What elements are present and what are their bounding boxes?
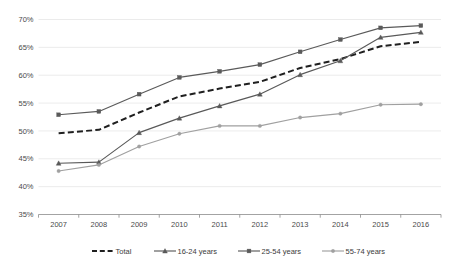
data-point-marker: [57, 169, 60, 172]
data-point-marker: [298, 116, 301, 119]
data-point-marker: [177, 76, 181, 80]
x-tick-label: 2007: [50, 220, 67, 229]
x-tick-label: 2016: [413, 220, 430, 229]
legend-label: 16-24 years: [178, 247, 218, 256]
data-point-marker: [247, 249, 251, 253]
legend-label: 55-74 years: [346, 247, 386, 256]
data-point-marker: [258, 63, 262, 67]
series-line: [59, 42, 421, 133]
x-tick-label: 2011: [212, 220, 228, 229]
legend-label: Total: [116, 247, 132, 256]
line-chart: 70%65%60%55%50%45%40%35% 200720082009201…: [0, 0, 449, 268]
y-tick-label: 60%: [18, 71, 33, 80]
y-tick-label: 65%: [18, 43, 33, 52]
data-point-marker: [178, 132, 181, 135]
plot-area: 70%65%60%55%50%45%40%35% 200720082009201…: [0, 0, 449, 268]
x-tick-label: 2013: [292, 220, 309, 229]
legend-item-total[interactable]: Total: [92, 247, 132, 256]
legend-label: 25-54 years: [262, 247, 302, 256]
data-point-marker: [338, 38, 342, 42]
y-tick-label: 40%: [18, 182, 33, 191]
y-tick-label: 45%: [18, 154, 33, 163]
x-tick-label: 2014: [332, 220, 349, 229]
data-point-marker: [379, 103, 382, 106]
x-tick-label: 2012: [252, 220, 269, 229]
data-point-marker: [419, 102, 422, 105]
x-tick-label: 2009: [131, 220, 148, 229]
x-axis-tick-labels: 2007200820092010201120122013201420152016: [50, 220, 429, 229]
chart-legend: Total16-24 years25-54 years55-74 years: [92, 247, 385, 256]
data-point-marker: [298, 50, 302, 54]
x-tick-label: 2015: [372, 220, 389, 229]
data-point-marker: [331, 249, 334, 252]
data-point-marker: [57, 113, 61, 117]
y-axis-tick-labels: 70%65%60%55%50%45%40%35%: [18, 15, 33, 219]
data-point-marker: [97, 110, 101, 114]
data-point-marker: [339, 112, 342, 115]
data-point-marker: [419, 24, 423, 28]
data-point-marker: [258, 124, 261, 127]
data-point-marker: [218, 124, 221, 127]
series-line: [59, 104, 421, 171]
legend-item-25-54-years[interactable]: 25-54 years: [238, 247, 301, 256]
y-tick-label: 35%: [18, 210, 33, 219]
legend-item-55-74-years[interactable]: 55-74 years: [322, 247, 385, 256]
series-line: [59, 26, 421, 115]
x-tick-label: 2010: [171, 220, 188, 229]
y-tick-label: 70%: [18, 15, 33, 24]
x-tick-label: 2008: [91, 220, 108, 229]
data-point-marker: [97, 163, 100, 166]
series-total: [59, 42, 421, 133]
y-tick-label: 55%: [18, 99, 33, 108]
series-55-74-years: [57, 102, 423, 172]
series-line: [59, 32, 421, 163]
legend-item-16-24-years[interactable]: 16-24 years: [154, 247, 217, 256]
data-series-group: [56, 24, 423, 173]
data-point-marker: [137, 92, 141, 96]
data-point-marker: [379, 26, 383, 30]
axes: [39, 215, 442, 218]
y-tick-label: 50%: [18, 127, 33, 136]
chart-container: 70%65%60%55%50%45%40%35% 200720082009201…: [0, 0, 449, 268]
data-point-marker: [137, 145, 140, 148]
data-point-marker: [218, 69, 222, 73]
